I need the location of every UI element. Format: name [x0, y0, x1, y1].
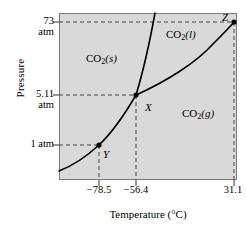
gas-state: (g) — [201, 107, 214, 119]
plot-area — [59, 13, 237, 180]
region-label-solid: CO2(s) — [86, 52, 117, 66]
point-label-z: Z — [222, 11, 228, 23]
phase-diagram-figure: Pressure 73 atm 5.11 atm 1 atm −78.5 −56… — [0, 0, 247, 235]
liquid-state: (l) — [185, 28, 195, 40]
y-tick-73-unit: atm — [8, 27, 54, 38]
y-tick-511-unit: atm — [8, 100, 54, 111]
region-label-gas: CO2(g) — [182, 107, 214, 121]
y-tick-label-1: 1 atm — [8, 139, 54, 150]
x-tick-label-785: −78.5 — [79, 184, 119, 195]
point-label-x: X — [145, 101, 152, 113]
x-axis-label: Temperature (°C) — [59, 208, 237, 220]
y-tick-511-value: 5.11 — [8, 89, 54, 100]
solid-state: (s) — [105, 52, 117, 64]
y-tick-73-value: 73 — [8, 16, 54, 27]
solid-formula: CO — [86, 52, 101, 64]
point-label-y: Y — [103, 148, 109, 160]
gas-formula: CO — [182, 107, 197, 119]
y-tick-1-value: 1 atm — [8, 139, 54, 150]
y-tick-label-73: 73 atm — [8, 16, 54, 37]
x-tick-label-564: −56.4 — [116, 184, 156, 195]
liquid-formula: CO — [166, 28, 181, 40]
x-tick-label-311: 31.1 — [213, 184, 247, 195]
region-label-liquid: CO2(l) — [166, 28, 196, 42]
y-tick-label-511: 5.11 atm — [8, 89, 54, 110]
